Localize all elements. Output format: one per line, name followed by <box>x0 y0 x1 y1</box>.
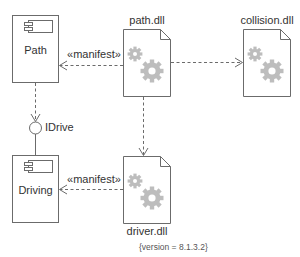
dependency-path-idrive <box>31 83 40 122</box>
dependency-path-dll-to-driver-dll <box>139 97 148 156</box>
artifact-label-driver-dll: driver.dll <box>127 226 168 237</box>
component-icon <box>25 21 53 33</box>
dependency-path-dll-to-collision-dll <box>171 58 243 67</box>
component-icon <box>25 161 53 173</box>
manifest-driver-dll-to-driving <box>60 185 124 194</box>
interface-label-idrive: IDrive <box>45 122 74 133</box>
interface-idrive[interactable] <box>30 122 42 134</box>
manifest-path-dll-to-path <box>60 61 124 70</box>
artifact-tagged-value-version: {version = 8.1.3.2} <box>139 243 208 252</box>
artifact-path-dll[interactable] <box>124 30 171 97</box>
stereotype-label-manifest: «manifest» <box>67 174 121 185</box>
artifact-label-path-dll: path.dll <box>129 15 164 26</box>
artifact-driver-dll[interactable] <box>124 157 171 224</box>
stereotype-label-manifest: «manifest» <box>67 49 121 60</box>
artifact-label-collision-dll: collision.dll <box>240 15 293 26</box>
artifact-collision-dll[interactable] <box>244 30 291 97</box>
component-label-driving: Driving <box>18 185 52 196</box>
component-label-path: Path <box>24 45 47 56</box>
